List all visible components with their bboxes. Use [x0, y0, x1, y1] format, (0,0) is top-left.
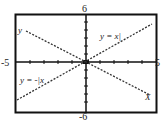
line-label-y-eq-x: y = x| — [99, 31, 121, 41]
y-max-label: 6 — [82, 3, 87, 14]
chart-canvas: 6 -6 -5 5 y = x| y = -|x y X — [0, 0, 163, 121]
line-label-y-eq-neg-x: y = -|x — [19, 75, 44, 85]
x-max-label: 5 — [155, 57, 160, 68]
x-min-label: -5 — [1, 57, 9, 68]
line-end-label-y: y — [17, 25, 22, 35]
y-min-label: -6 — [79, 111, 87, 121]
line-end-label-x: X — [144, 92, 151, 102]
